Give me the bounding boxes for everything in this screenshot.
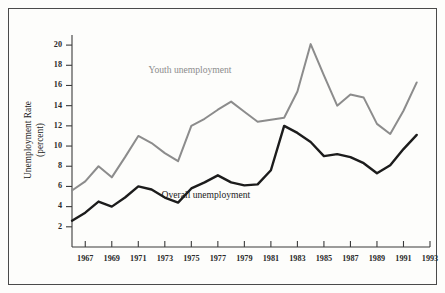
x-tick-label: 1985 [316,254,332,263]
y-axis-title-line-2: (percent) [35,123,46,157]
x-axis-ticks [85,241,430,247]
y-tick-label: 8 [58,161,62,170]
chart-figure: 2468101214161820 19671969197119731975197… [0,0,445,293]
x-tick-label: 1971 [130,254,146,263]
y-tick-label: 18 [54,60,62,69]
x-axis-tick-labels: 1967196919711973197519771979198119831985… [77,254,438,263]
series-line-youth-unemployment [72,44,417,190]
series-annotation-1: Overall unemployment [162,189,251,200]
y-tick-label: 10 [54,141,62,150]
x-tick-label: 1991 [395,254,411,263]
unemployment-line-chart: 2468101214161820 19671969197119731975197… [0,0,445,293]
y-axis-tick-labels: 2468101214161820 [54,40,62,231]
x-tick-label: 1983 [289,254,305,263]
series-annotations: Youth unemploymentOverall unemployment [149,64,251,199]
x-tick-label: 1989 [369,254,385,263]
y-tick-label: 20 [54,40,62,49]
series-line-overall-unemployment [72,126,417,221]
x-tick-label: 1969 [104,254,120,263]
x-tick-label: 1975 [183,254,199,263]
x-tick-label: 1973 [157,254,173,263]
x-tick-label: 1987 [342,254,358,263]
x-tick-label: 1979 [236,254,252,263]
y-axis-title-line-1: Unemployment Rate [23,101,33,179]
y-tick-label: 12 [54,121,62,130]
series-annotation-0: Youth unemployment [149,64,232,75]
x-tick-label: 1977 [210,254,226,263]
y-tick-label: 16 [54,80,62,89]
y-tick-label: 4 [58,201,62,210]
x-tick-label: 1993 [422,254,438,263]
y-tick-label: 14 [54,101,62,110]
x-tick-label: 1981 [263,254,279,263]
y-axis: 2468101214161820 [54,35,72,247]
y-tick-label: 2 [58,222,62,231]
y-axis-ticks [66,45,72,227]
x-axis: 1967196919711973197519771979198119831985… [72,241,438,263]
x-tick-label: 1967 [77,254,93,263]
y-axis-title: Unemployment Rate (percent) [23,101,46,179]
y-tick-label: 6 [58,181,62,190]
